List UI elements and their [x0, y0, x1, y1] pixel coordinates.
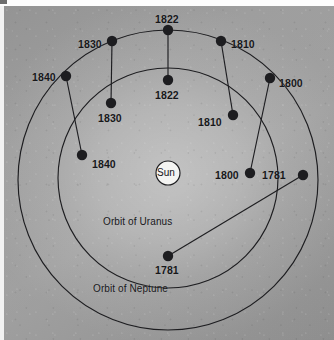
connector-line-1800 — [250, 78, 270, 173]
year-label-neptune-1822: 1822 — [155, 13, 179, 25]
scan-top-nick — [0, 0, 7, 4]
orbit-caption-neptune: Orbit of Neptune — [93, 283, 168, 294]
connector-line-1840 — [66, 76, 82, 155]
marker-dot-uranus-1840 — [77, 150, 87, 160]
year-label-uranus-1822: 1822 — [155, 89, 179, 101]
connector-lines-group — [66, 30, 303, 256]
year-label-uranus-1781: 1781 — [155, 264, 179, 276]
year-label-neptune-1810: 1810 — [231, 38, 255, 50]
year-label-uranus-1830: 1830 — [98, 112, 122, 124]
year-label-neptune-1830: 1830 — [78, 38, 102, 50]
scan-left-edge — [0, 0, 4, 340]
year-label-uranus-1800: 1800 — [215, 169, 239, 181]
connector-line-1830 — [111, 41, 112, 103]
marker-dots-group — [61, 25, 308, 261]
marker-dot-neptune-1822 — [163, 25, 173, 35]
marker-dot-neptune-1830 — [107, 36, 117, 46]
scan-top-edge — [0, 0, 334, 6]
marker-dot-uranus-1781 — [163, 251, 173, 261]
marker-dot-neptune-1840 — [61, 71, 71, 81]
connector-line-1810 — [221, 41, 233, 115]
marker-dot-uranus-1800 — [245, 168, 255, 178]
marker-dot-neptune-1800 — [265, 73, 275, 83]
astronomy-orbit-figure: 1781180018101822183018401781180018101822… — [0, 0, 334, 340]
marker-dot-uranus-1830 — [106, 98, 116, 108]
marker-dot-neptune-1810 — [216, 36, 226, 46]
year-label-neptune-1800: 1800 — [279, 77, 303, 89]
orbit-caption-uranus: Orbit of Uranus — [103, 216, 172, 227]
marker-dot-neptune-1781 — [298, 170, 308, 180]
year-label-neptune-1781: 1781 — [262, 169, 286, 181]
marker-dot-uranus-1810 — [228, 110, 238, 120]
connector-line-1781 — [168, 175, 303, 256]
year-label-uranus-1810: 1810 — [198, 116, 222, 128]
marker-dot-uranus-1822 — [163, 75, 173, 85]
year-label-neptune-1840: 1840 — [32, 71, 56, 83]
sun-label: Sun — [157, 167, 175, 178]
year-label-uranus-1840: 1840 — [92, 158, 116, 170]
